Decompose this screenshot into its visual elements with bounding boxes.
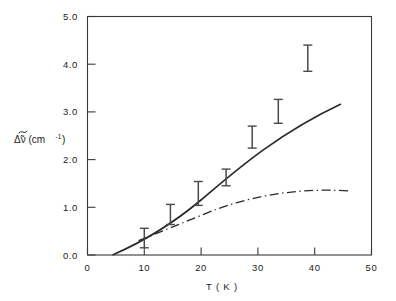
errorbar-point <box>274 99 283 123</box>
errorbar-group <box>140 45 312 248</box>
y-tick-label: 2.0 <box>63 154 78 165</box>
figure-container: 0.0 1.0 2.0 3.0 4.0 5.0 0 10 20 30 40 50… <box>0 0 396 301</box>
y-tickmarks <box>88 17 96 256</box>
x-tick-labels: 0 10 20 30 40 50 <box>85 262 378 273</box>
x-tick-label: 40 <box>309 262 321 273</box>
x-tick-label: 50 <box>366 262 378 273</box>
x-tickmarks <box>88 248 372 256</box>
y-tick-label: 1.0 <box>63 202 78 213</box>
y-tick-label: 3.0 <box>63 106 78 117</box>
x-tick-label: 10 <box>138 262 150 273</box>
errorbar-point <box>248 126 257 148</box>
chart-plot: 0.0 1.0 2.0 3.0 4.0 5.0 0 10 20 30 40 50… <box>0 0 396 301</box>
errorbar-point <box>303 45 312 71</box>
y-tick-label: 5.0 <box>63 11 78 22</box>
y-axis-title-base: Δ̃ν (cm <box>14 134 45 145</box>
plot-frame <box>88 17 372 256</box>
y-tick-label: 4.0 <box>63 59 78 70</box>
y-axis-title: Δ̃ν (cm -1 ) <box>14 131 65 145</box>
y-tick-label: 0.0 <box>63 250 78 261</box>
y-axis-title-superscript: -1 <box>56 133 62 140</box>
tilde-accent-icon <box>19 131 28 133</box>
y-axis-title-tail: ) <box>62 134 65 145</box>
errorbar-point <box>194 182 203 206</box>
x-axis-title: T ( K ) <box>206 281 238 292</box>
x-tick-label: 30 <box>252 262 264 273</box>
x-tick-label: 0 <box>85 262 91 273</box>
x-tick-label: 20 <box>195 262 207 273</box>
